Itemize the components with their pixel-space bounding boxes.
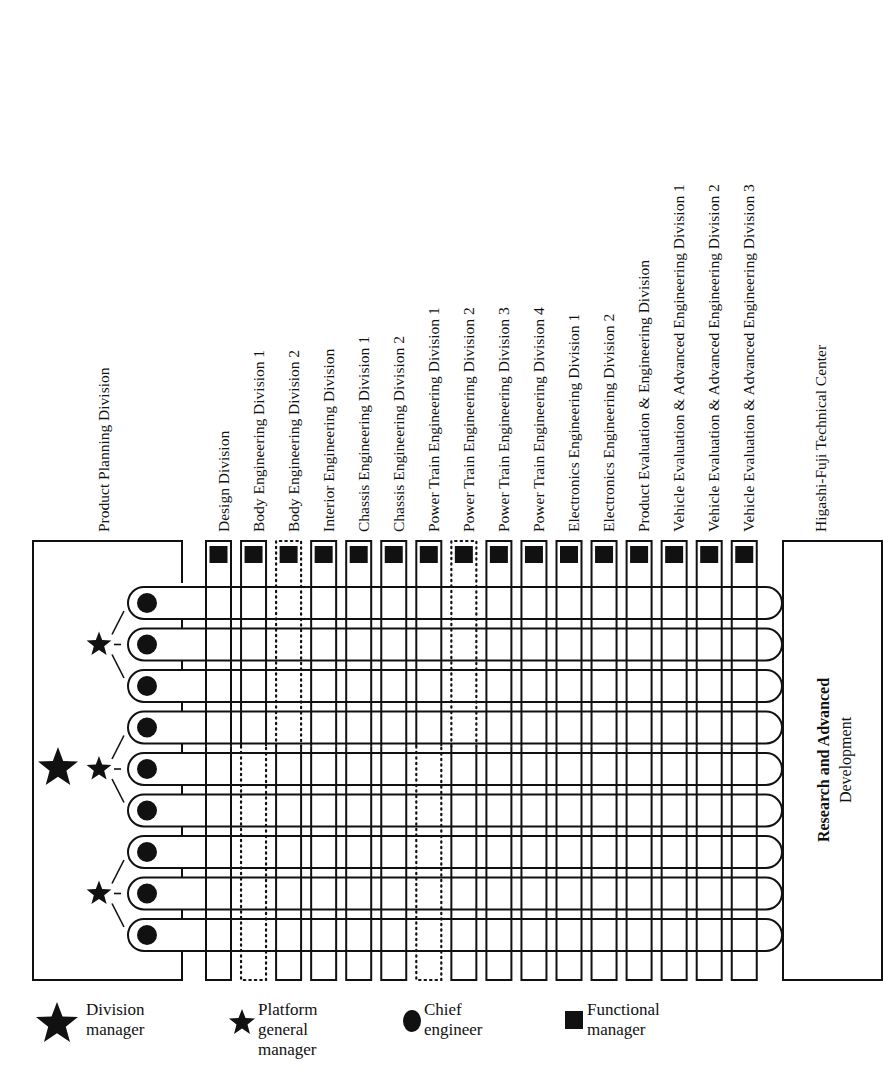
- functional-manager-icon: [315, 546, 333, 563]
- branch-line: [112, 655, 124, 679]
- legend-label-line: engineer: [424, 1020, 483, 1040]
- branch-line: [112, 779, 124, 803]
- project-row: [128, 629, 782, 661]
- small-star-icon: [228, 1008, 256, 1036]
- project-row: [128, 919, 782, 951]
- functional-manager-icon: [385, 546, 403, 563]
- functional-manager-icon: [630, 546, 648, 563]
- functional-manager-icon: [700, 546, 718, 563]
- functional-manager-icon: [665, 546, 683, 563]
- functional-manager-icon: [560, 546, 578, 563]
- project-row: [128, 878, 782, 910]
- project-row: [128, 836, 782, 868]
- legend-label-line: Division: [86, 1000, 145, 1020]
- functional-manager-icon: [525, 546, 543, 563]
- functional-manager-icon: [280, 546, 298, 563]
- functional-manager-icon: [350, 546, 368, 563]
- platform-general-manager-icon: [87, 632, 112, 656]
- chief-engineer-icon: [137, 801, 157, 821]
- legend-label-line: general: [258, 1020, 318, 1040]
- project-row: [128, 712, 782, 744]
- branch-line: [112, 736, 124, 760]
- chief-engineer-icon: [137, 635, 157, 655]
- functional-manager-icon: [595, 546, 613, 563]
- functional-manager-icon: [490, 546, 508, 563]
- functional-manager-icon: [735, 546, 753, 563]
- square-icon: [564, 1010, 584, 1030]
- functional-manager-icon: [420, 546, 438, 563]
- legend-label-line: manager: [86, 1020, 145, 1040]
- legend-label-line: Functional: [587, 1000, 660, 1020]
- rd-line-2: Development: [835, 717, 857, 803]
- chief-engineer-icon: [137, 842, 157, 862]
- chief-engineer-icon: [137, 718, 157, 738]
- legend-label-line: Chief: [424, 1000, 483, 1020]
- chief-engineer-icon: [137, 676, 157, 696]
- chief-engineer-icon: [137, 925, 157, 945]
- project-row: [128, 753, 782, 785]
- platform-general-manager-icon: [87, 881, 112, 905]
- functional-manager-icon: [455, 546, 473, 563]
- large-star-icon: [34, 1000, 80, 1044]
- legend-label-line: manager: [258, 1040, 318, 1060]
- branch-line: [112, 860, 124, 884]
- chief-engineer-icon: [137, 593, 157, 613]
- project-row: [128, 587, 782, 619]
- matrix-diagram: [0, 0, 883, 1082]
- project-row: [128, 670, 782, 702]
- rd-line-1: Research and Advanced: [813, 678, 835, 842]
- functional-manager-icon: [210, 546, 228, 563]
- legend-division-manager: Division manager: [34, 1000, 145, 1044]
- branch-line: [112, 904, 124, 928]
- chief-engineer-icon: [137, 884, 157, 904]
- legend-label-line: manager: [587, 1020, 660, 1040]
- circle-icon: [402, 1008, 422, 1034]
- branch-line: [112, 611, 124, 635]
- legend-label-line: Platform: [258, 1000, 318, 1020]
- legend-functional-manager: Functional manager: [564, 1000, 660, 1040]
- manager-stars: [38, 611, 124, 927]
- chief-engineer-icon: [137, 759, 157, 779]
- functional-manager-icon: [245, 546, 263, 563]
- division-manager-icon: [38, 747, 78, 785]
- legend-chief-engineer: Chief engineer: [402, 1000, 483, 1040]
- project-rows: [128, 587, 782, 980]
- legend-platform-manager: Platform general manager: [228, 1000, 318, 1060]
- project-row: [128, 795, 782, 827]
- research-and-development-label: Research and Advanced Development: [790, 545, 880, 975]
- platform-general-manager-icon: [87, 756, 112, 780]
